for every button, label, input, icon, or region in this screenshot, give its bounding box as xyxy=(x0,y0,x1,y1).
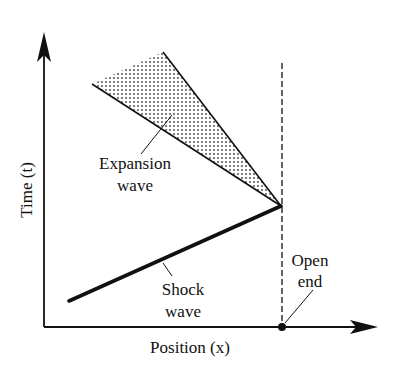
shock-label-line1: Shock xyxy=(162,280,205,299)
shock-leader xyxy=(163,263,172,276)
open-end-leader xyxy=(285,290,313,323)
open-end-label-line1: Open xyxy=(292,251,329,270)
position-axis-label: Position (x) xyxy=(150,338,230,357)
expansion-label-line1: Expansion xyxy=(99,154,171,173)
open-end-point xyxy=(278,323,286,331)
time-axis-label: Time (t) xyxy=(17,162,36,218)
open-end-label-line2: end xyxy=(298,272,323,291)
expansion-label-line2: wave xyxy=(117,176,153,195)
wave-diagram: Expansion wave Shock wave Open end Posit… xyxy=(0,0,399,373)
shock-label-line2: wave xyxy=(165,302,201,321)
